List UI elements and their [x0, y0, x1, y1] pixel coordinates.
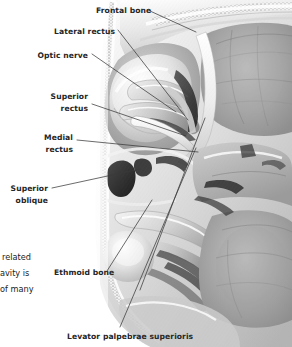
body-text-fragment-3: of many	[0, 281, 34, 297]
label-optic-nerve: Optic nerve	[0, 50, 88, 62]
label-levator-palpebrae-superioris: Levator palpebrae superioris	[67, 331, 193, 343]
label-superior-rectus-line2: rectus	[0, 103, 88, 115]
anatomy-figure: Frontal bone Lateral rectus Optic nerve …	[0, 0, 292, 347]
label-superior-rectus-line1: Superior	[0, 91, 88, 103]
label-medial-rectus-line2: rectus	[0, 144, 73, 156]
label-lateral-rectus: Lateral rectus	[0, 26, 115, 38]
label-superior-oblique-line2: oblique	[0, 195, 48, 207]
body-text-fragment-2: avity is	[0, 265, 29, 281]
label-medial-rectus-line1: Medial	[0, 132, 73, 144]
label-superior-oblique-line1: Superior	[0, 183, 48, 195]
label-ethmoid-bone: Ethmoid bone	[54, 267, 114, 279]
label-frontal-bone: Frontal bone	[96, 5, 151, 17]
body-text-fragment-1: related	[2, 249, 31, 265]
